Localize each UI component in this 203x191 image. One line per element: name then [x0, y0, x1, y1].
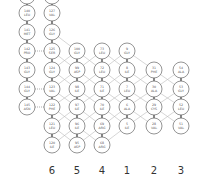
- residue-node: 142PRO: [19, 43, 35, 59]
- residue-name: LEU: [49, 126, 56, 130]
- residue-name: GLY: [178, 89, 184, 93]
- residue-node: 124GLY: [44, 62, 60, 78]
- residue-node: 54ALA: [173, 62, 189, 78]
- residue-node: 143GLY: [19, 62, 35, 78]
- residue-name: ILE: [75, 126, 80, 130]
- residue-node: 52LEU: [173, 99, 189, 115]
- residue-node: 29CYS: [146, 99, 162, 115]
- strand-label: 2: [151, 165, 157, 176]
- residue-name: VAL: [49, 89, 55, 93]
- residue-node: 70ILE: [94, 99, 110, 115]
- residue-node: 68ARG: [94, 137, 110, 153]
- residue-node: 95ASP: [69, 137, 85, 153]
- residue-node: 5ILE: [119, 118, 135, 134]
- residue-name: GLY: [49, 32, 55, 36]
- residue-node: 72LEU: [94, 62, 110, 78]
- residue-node: [44, 0, 60, 4]
- residue-name: ILE: [125, 126, 130, 130]
- residue-name: ALA: [151, 89, 158, 93]
- residue-name: SER: [49, 51, 56, 55]
- residue-node: 121LEU: [44, 118, 60, 134]
- residue-node: 30ALA: [146, 81, 162, 97]
- residue-name: VAL: [151, 126, 157, 130]
- residue-node: 123VAL: [44, 81, 60, 97]
- residue-node: 140LEU: [19, 5, 35, 21]
- residue-name: MET: [24, 32, 31, 36]
- strand-label: 4: [99, 165, 105, 176]
- residue-node: 145ASN: [19, 99, 35, 115]
- residue-node: 96ILE: [69, 118, 85, 134]
- residue-name: GLY: [24, 89, 30, 93]
- residue-name: ALA: [124, 107, 131, 111]
- residue-node: 7LEU: [119, 81, 135, 97]
- residue-name: ILE: [50, 145, 55, 149]
- diagram-canvas: 140LEU141MET142PRO143GLY144GLY145ASN127V…: [0, 0, 203, 191]
- residue-name: ARG: [99, 145, 106, 149]
- residue-name: LEU: [178, 107, 185, 111]
- strand-label: 6: [49, 165, 55, 176]
- residue-node: 122PHE: [44, 99, 60, 115]
- residue-name: ARG: [99, 126, 106, 130]
- residue-name: ASN: [24, 107, 31, 111]
- residue-name: CYS: [151, 107, 157, 111]
- residue-node: 28VAL: [146, 118, 162, 134]
- residue-node: 99ASP: [69, 62, 85, 78]
- residue-node: 69ARG: [94, 118, 110, 134]
- residue-name: LEU: [99, 70, 106, 74]
- residue-name: GLY: [24, 70, 30, 74]
- residue-node: 100GLY: [69, 43, 85, 59]
- residue-name: GLY: [74, 51, 80, 55]
- residue-name: PRO: [24, 51, 31, 55]
- residue-name: ALA: [178, 70, 185, 74]
- residue-name: ILE: [100, 89, 105, 93]
- residue-name: ILE: [75, 89, 80, 93]
- residue-name: VAL: [178, 126, 184, 130]
- strand-label: 5: [74, 165, 80, 176]
- residue-name: VAL: [49, 13, 55, 17]
- residue-node: 127VAL: [44, 5, 60, 21]
- residue-node: 8ILE: [119, 62, 135, 78]
- residue-node: 97ILE: [69, 99, 85, 115]
- residue-name: GLY: [49, 70, 55, 74]
- strand-label: 1: [124, 165, 130, 176]
- residue-circle: [19, 0, 35, 4]
- beta-sheet-diagram: 140LEU141MET142PRO143GLY144GLY145ASN127V…: [0, 0, 203, 191]
- label-layer: 654123: [49, 165, 184, 176]
- residue-node: 141MET: [19, 24, 35, 40]
- residue-name: ILE: [75, 107, 80, 111]
- residue-node: 98ILE: [69, 81, 85, 97]
- strand-label: 3: [178, 165, 184, 176]
- residue-name: LEU: [24, 13, 31, 17]
- residue-name: LEU: [124, 89, 131, 93]
- residue-name: LEU: [99, 51, 106, 55]
- residue-name: GLY: [124, 51, 130, 55]
- residue-node: 144GLY: [19, 81, 35, 97]
- residue-node: 73LEU: [94, 43, 110, 59]
- residue-node: 125SER: [44, 43, 60, 59]
- residue-name: ILE: [100, 107, 105, 111]
- residue-circle: [44, 0, 60, 4]
- residue-node: 71ILE: [94, 81, 110, 97]
- residue-node: 53GLY: [173, 81, 189, 97]
- residue-node: 126GLY: [44, 24, 60, 40]
- residue-node: 120ILE: [44, 137, 60, 153]
- residue-name: PHE: [49, 107, 55, 111]
- residue-name: PHE: [151, 70, 157, 74]
- residue-node: 51VAL: [173, 118, 189, 134]
- residue-name: ASP: [74, 70, 80, 74]
- residue-node: [19, 0, 35, 4]
- residue-node: 31PHE: [146, 62, 162, 78]
- residue-node: 9GLY: [119, 43, 135, 59]
- residue-name: ASP: [74, 145, 80, 149]
- residue-node: 6ALA: [119, 99, 135, 115]
- residue-name: ILE: [125, 70, 130, 74]
